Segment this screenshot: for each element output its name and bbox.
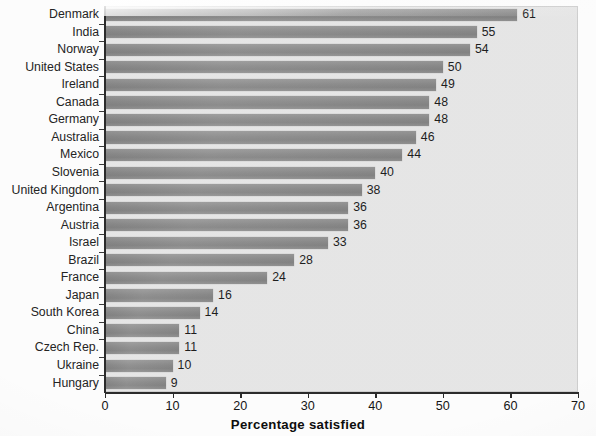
category-label: Slovenia (0, 164, 99, 182)
bar (105, 307, 200, 319)
category-label: Czech Rep. (0, 339, 99, 357)
bar-value-label: 11 (184, 322, 197, 340)
x-axis-title: Percentage satisfied (0, 417, 596, 432)
x-axis-tick (443, 392, 444, 398)
bar-row: Ireland49 (0, 76, 596, 94)
bar (105, 9, 517, 21)
bar-row: Germany48 (0, 111, 596, 129)
bar-value-label: 16 (218, 287, 232, 305)
category-label: Germany (0, 111, 99, 129)
x-axis-tick (173, 392, 174, 398)
bar (105, 61, 443, 73)
category-label: Austria (0, 217, 99, 235)
x-axis-tick-label: 10 (166, 399, 180, 414)
bar-value-label: 49 (441, 76, 455, 94)
bar-value-label: 9 (171, 375, 178, 393)
x-axis-tick (240, 392, 241, 398)
bar-value-label: 10 (178, 357, 192, 375)
y-axis-line (104, 6, 106, 393)
bar (105, 44, 470, 56)
bar-value-label: 46 (421, 129, 435, 147)
category-label: Israel (0, 234, 99, 252)
bar-value-label: 54 (475, 41, 489, 59)
bar-row: Canada48 (0, 94, 596, 112)
category-label: Argentina (0, 199, 99, 217)
x-axis-tick-label: 60 (503, 399, 517, 414)
bar-row: Czech Rep.11 (0, 339, 596, 357)
bar-value-label: 11 (184, 339, 197, 357)
x-axis-tick-label: 0 (101, 399, 108, 414)
bar (105, 289, 213, 301)
bar (105, 202, 348, 214)
bar (105, 342, 179, 354)
x-axis-tick-label: 50 (436, 399, 450, 414)
category-label: France (0, 269, 99, 287)
category-label: Canada (0, 94, 99, 112)
bar-value-label: 28 (299, 252, 313, 270)
x-axis-tick (375, 392, 376, 398)
bar-row: Argentina36 (0, 199, 596, 217)
bar (105, 26, 477, 38)
category-label: Norway (0, 41, 99, 59)
bar-row: Austria36 (0, 217, 596, 235)
category-label: Mexico (0, 146, 99, 164)
bar (105, 237, 328, 249)
bar-value-label: 14 (205, 304, 219, 322)
bar-row: China11 (0, 322, 596, 340)
category-label: Japan (0, 287, 99, 305)
category-label: China (0, 322, 99, 340)
bar-value-label: 38 (367, 182, 381, 200)
category-label: India (0, 24, 99, 42)
category-label: Hungary (0, 375, 99, 393)
category-label: Australia (0, 129, 99, 147)
bar (105, 324, 179, 336)
bar (105, 79, 436, 91)
bar-row: Israel33 (0, 234, 596, 252)
bar-row: United Kingdom38 (0, 182, 596, 200)
bar-row: France24 (0, 269, 596, 287)
bar-row: Norway54 (0, 41, 596, 59)
x-axis-tick (510, 392, 511, 398)
x-axis-tick-label: 20 (233, 399, 247, 414)
bar-row: South Korea14 (0, 304, 596, 322)
bar-value-label: 36 (353, 217, 367, 235)
bar-value-label: 61 (522, 6, 536, 24)
category-label: Ireland (0, 76, 99, 94)
bar (105, 149, 402, 161)
bar-row: United States50 (0, 59, 596, 77)
category-label: Brazil (0, 252, 99, 270)
bar (105, 131, 416, 143)
bar-row: Japan16 (0, 287, 596, 305)
bar-value-label: 48 (434, 94, 448, 112)
bar-value-label: 48 (434, 111, 448, 129)
bar-row: Brazil28 (0, 252, 596, 270)
x-axis-tick-label: 70 (571, 399, 585, 414)
bar-row: Australia46 (0, 129, 596, 147)
bar (105, 184, 362, 196)
bar (105, 377, 166, 389)
bar-row: Slovenia40 (0, 164, 596, 182)
bar-row: Mexico44 (0, 146, 596, 164)
x-axis-tick-label: 40 (368, 399, 382, 414)
bar (105, 254, 294, 266)
bar-chart: Denmark61India55Norway54United States50I… (0, 0, 596, 436)
bar (105, 114, 429, 126)
x-axis-tick-label: 30 (301, 399, 315, 414)
bar-value-label: 24 (272, 269, 286, 287)
bar (105, 96, 429, 108)
bar-value-label: 55 (482, 24, 496, 42)
x-axis-line (105, 392, 579, 394)
category-label: United States (0, 59, 99, 77)
category-label: South Korea (0, 304, 99, 322)
x-axis-tick (105, 392, 106, 398)
bar-value-label: 40 (380, 164, 394, 182)
x-axis-tick (308, 392, 309, 398)
bar (105, 167, 375, 179)
x-axis-tick (578, 392, 579, 398)
bar (105, 360, 173, 372)
category-label: United Kingdom (0, 182, 99, 200)
bar-value-label: 44 (407, 146, 421, 164)
bar-row: Hungary9 (0, 375, 596, 393)
category-label: Ukraine (0, 357, 99, 375)
bar-value-label: 33 (333, 234, 347, 252)
